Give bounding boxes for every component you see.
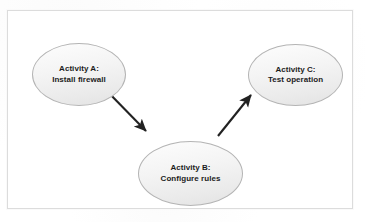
node-activity-a[interactable]: Activity A: Install firewall [32,43,126,106]
node-activity-b[interactable]: Activity B: Configure rules [138,141,243,206]
node-activity-c[interactable]: Activity C: Test operation [248,44,343,106]
node-activity-c-label: Activity C: Test operation [264,65,327,86]
diagram-canvas: Activity A: Install firewall Activity B:… [0,0,365,222]
node-activity-b-label: Activity B: Configure rules [157,163,225,184]
edge-activity-b-to-activity-c [218,95,251,136]
diagram-frame: Activity A: Install firewall Activity B:… [7,10,353,209]
node-activity-a-label: Activity A: Install firewall [48,64,110,85]
